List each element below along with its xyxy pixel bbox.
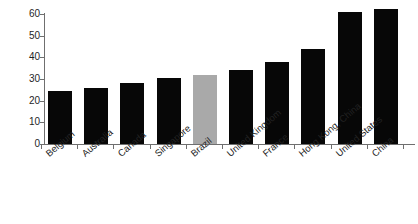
x-axis-tick-mark: [403, 145, 404, 149]
y-axis-tick-label: 30: [16, 74, 40, 84]
plot-area: 0102030405060 BelgiumAustraliaCanadaSing…: [0, 0, 418, 224]
y-axis-tick-mark: [40, 36, 45, 37]
y-axis-tick-mark: [40, 122, 45, 123]
y-axis-tick-mark: [40, 101, 45, 102]
y-axis-tick-mark: [40, 57, 45, 58]
bar-chart: 0102030405060 BelgiumAustraliaCanadaSing…: [0, 0, 418, 224]
y-axis-tick-mark: [40, 14, 45, 15]
x-axis-tick-mark: [222, 145, 223, 149]
y-axis-tick-mark: [40, 79, 45, 80]
y-axis-tick-label: 60: [16, 9, 40, 19]
x-axis-tick-mark: [331, 145, 332, 149]
x-axis-tick-mark: [150, 145, 151, 149]
y-axis-tick-label: 40: [16, 52, 40, 62]
x-axis-tick-mark: [367, 145, 368, 149]
x-axis-tick-mark: [113, 145, 114, 149]
x-axis-tick-mark: [258, 145, 259, 149]
y-axis-tick-label: 0: [16, 139, 40, 149]
y-axis-tick-label: 50: [16, 31, 40, 41]
x-axis-tick-mark: [41, 145, 42, 149]
bar-france: [265, 62, 289, 144]
y-axis-tick-label: 10: [16, 117, 40, 127]
x-axis-tick-mark: [186, 145, 187, 149]
x-axis-tick-mark: [294, 145, 295, 149]
y-axis-tick-label: 20: [16, 96, 40, 106]
x-axis-tick-mark: [77, 145, 78, 149]
bar-brazil: [193, 75, 217, 144]
